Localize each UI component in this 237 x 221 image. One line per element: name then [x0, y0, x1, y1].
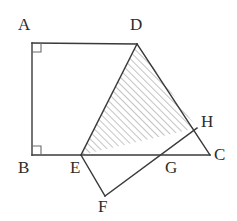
vertex-label-a: A: [18, 16, 30, 33]
segment-AD: [32, 43, 137, 44]
segment-EF: [81, 155, 105, 196]
vertex-label-f: F: [98, 198, 107, 215]
vertex-label-c: C: [214, 146, 225, 163]
right-angle-B: [32, 146, 41, 155]
right-angle-A: [32, 43, 41, 52]
geometry-canvas: [0, 0, 237, 221]
shaded-triangle-DEH: [81, 44, 197, 155]
geometry-figure: ADBEGCHF: [0, 0, 237, 221]
vertex-label-g: G: [165, 159, 177, 176]
vertex-label-d: D: [130, 16, 142, 33]
vertex-label-e: E: [70, 159, 80, 176]
vertex-label-h: H: [201, 113, 213, 130]
right-angle-marks-group: [32, 43, 41, 155]
vertex-label-b: B: [18, 159, 29, 176]
